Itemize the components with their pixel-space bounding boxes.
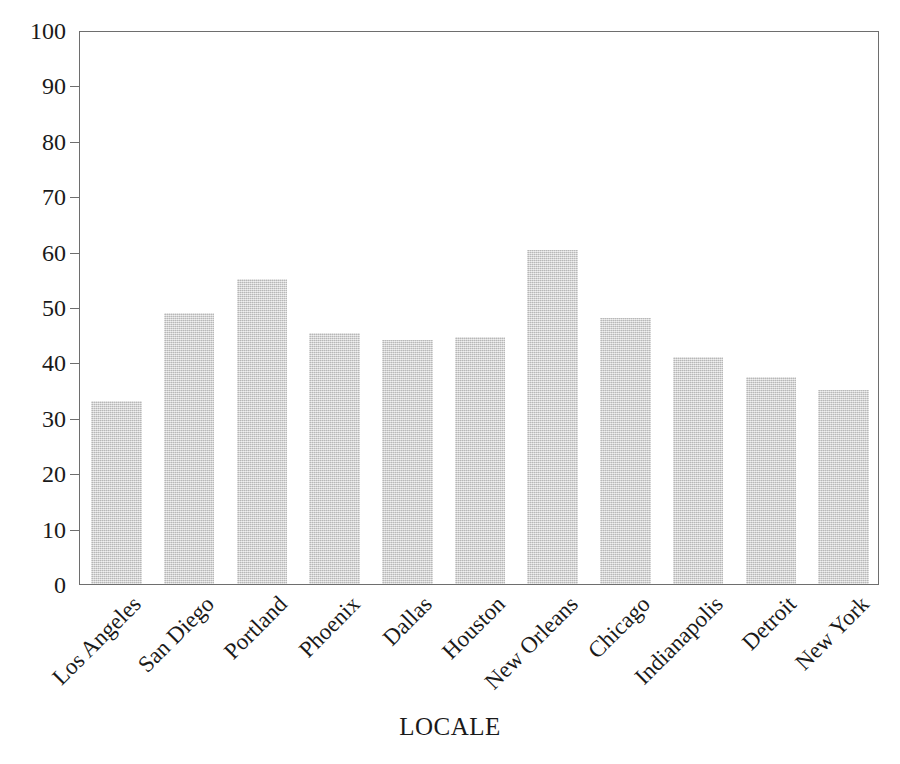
bar[interactable] (527, 250, 578, 584)
x-axis-tick-label-text: Chicago (584, 592, 654, 662)
y-axis-tick-label: 60 (10, 241, 66, 265)
x-axis-tick-label: New York (857, 592, 873, 608)
plot-area (79, 31, 879, 585)
x-axis-tick-label-text: Phoenix (294, 592, 364, 662)
x-axis-tick-label: Indianapolis (711, 592, 727, 608)
x-axis-tick-label: Los Angeles (129, 592, 145, 608)
x-axis-tick-label-text: San Diego (134, 592, 218, 676)
y-axis-tick-label: 20 (10, 462, 66, 486)
x-axis-tick-label-text: Los Angeles (48, 592, 145, 689)
y-axis-tick-label: 80 (10, 130, 66, 154)
bar-chart-figure: PERCENT 0102030405060708090100 Los Angel… (0, 0, 900, 764)
y-axis-tick-label: 10 (10, 518, 66, 542)
y-axis-tick-label: 70 (10, 185, 66, 209)
bar[interactable] (91, 401, 142, 584)
bar[interactable] (309, 333, 360, 584)
y-axis-tick-label: 50 (10, 296, 66, 320)
x-axis-tick-label-text: New York (791, 592, 873, 674)
x-axis-tick-label: Detroit (784, 592, 800, 608)
x-axis-tick-label: San Diego (202, 592, 218, 608)
x-axis-tick-label: Phoenix (348, 592, 364, 608)
bar[interactable] (600, 318, 651, 584)
bar[interactable] (746, 377, 797, 584)
bar[interactable] (237, 279, 288, 584)
y-axis-tick-label: 0 (10, 573, 66, 597)
x-axis-title: LOCALE (0, 713, 900, 741)
x-axis-tick-label: Dallas (420, 592, 436, 608)
x-axis-tick-label: Chicago (638, 592, 654, 608)
x-axis-tick-label: Houston (493, 592, 509, 608)
bar[interactable] (164, 313, 215, 584)
bar[interactable] (382, 340, 433, 584)
y-axis-tick-label: 30 (10, 407, 66, 431)
x-axis-tick-label-text: Dallas (379, 592, 437, 650)
x-axis-tick-label: Portland (275, 592, 291, 608)
y-axis-tick-label: 40 (10, 351, 66, 375)
bar[interactable] (818, 390, 869, 584)
y-axis-tick-label: 100 (10, 19, 66, 43)
x-axis-tick-label-text: Portland (220, 592, 291, 663)
bar[interactable] (455, 337, 506, 584)
y-axis-tick-label: 90 (10, 74, 66, 98)
x-axis-tick-label-text: Detroit (738, 592, 800, 654)
x-axis-tick-label: New Orleans (566, 592, 582, 608)
y-axis-title: PERCENT (0, 84, 34, 264)
bar[interactable] (673, 357, 724, 584)
x-axis-tick-label-text: Houston (438, 592, 509, 663)
